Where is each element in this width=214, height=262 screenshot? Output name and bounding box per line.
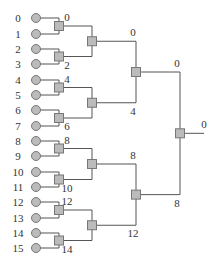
value-label: 8 xyxy=(174,197,180,209)
combine-node xyxy=(88,37,97,46)
value-label: 7 xyxy=(15,120,21,132)
value-label: 10 xyxy=(13,166,25,178)
reduction-tree-diagram: 0246810121404812080012345678910111213141… xyxy=(0,0,214,262)
value-label: 2 xyxy=(64,59,70,71)
leaf-node xyxy=(32,60,41,69)
value-label: 0 xyxy=(15,12,21,24)
leaf-node xyxy=(32,229,41,238)
value-label: 15 xyxy=(13,242,25,254)
value-label: 0 xyxy=(201,118,207,130)
connector-line xyxy=(136,72,180,195)
combine-node xyxy=(176,129,185,138)
combine-node xyxy=(55,206,64,215)
value-label: 13 xyxy=(13,212,25,224)
connector-line xyxy=(92,41,136,103)
value-label: 14 xyxy=(13,227,25,239)
value-label: 6 xyxy=(15,104,21,116)
value-label: 8 xyxy=(15,135,21,147)
combine-node xyxy=(55,83,64,92)
combine-node xyxy=(88,221,97,230)
leaf-node xyxy=(32,122,41,131)
value-label: 12 xyxy=(13,196,24,208)
combine-node xyxy=(88,160,97,169)
value-label: 4 xyxy=(15,74,21,86)
connector-line xyxy=(92,164,136,225)
leaf-node xyxy=(32,45,41,54)
leaf-node xyxy=(32,198,41,207)
value-label: 8 xyxy=(130,149,136,161)
leaf-node xyxy=(32,91,41,100)
leaf-node xyxy=(32,168,41,177)
combine-node xyxy=(55,144,64,153)
value-label: 4 xyxy=(130,105,136,117)
combine-node xyxy=(132,68,141,77)
leaf-node xyxy=(32,183,41,192)
leaf-node xyxy=(32,152,41,161)
combine-node xyxy=(55,175,64,184)
leaf-node xyxy=(32,14,41,23)
value-label: 4 xyxy=(64,73,70,85)
combine-node xyxy=(55,22,64,31)
combine-node xyxy=(55,114,64,123)
value-label: 0 xyxy=(174,57,180,69)
combine-node xyxy=(132,190,141,199)
combine-node xyxy=(88,98,97,107)
leaf-node xyxy=(32,244,41,253)
value-label: 0 xyxy=(64,11,70,23)
value-label: 9 xyxy=(15,150,21,162)
combine-node xyxy=(55,52,64,61)
value-label: 1 xyxy=(15,28,21,40)
value-label: 2 xyxy=(15,43,21,55)
value-label: 12 xyxy=(128,227,139,239)
value-label: 6 xyxy=(64,120,70,132)
value-label: 0 xyxy=(130,26,136,38)
leaf-node xyxy=(32,137,41,146)
value-label: 8 xyxy=(64,134,70,146)
combine-node xyxy=(55,236,64,245)
leaf-node xyxy=(32,214,41,223)
value-label: 5 xyxy=(15,89,21,101)
value-label: 11 xyxy=(13,181,24,193)
leaf-node xyxy=(32,106,41,115)
leaf-node xyxy=(32,30,41,39)
value-label: 3 xyxy=(15,58,21,70)
leaf-node xyxy=(32,76,41,85)
